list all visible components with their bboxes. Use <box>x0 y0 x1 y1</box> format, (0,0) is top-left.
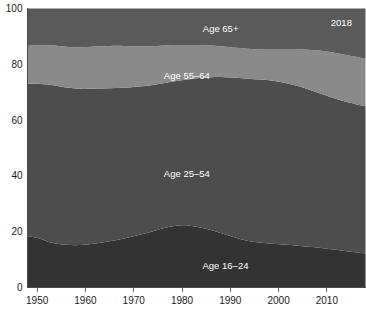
series-label-3: Age 55–64 <box>164 70 210 81</box>
x-tick-labels: 1950196019701980199020002010 <box>26 295 338 306</box>
series-label-2: Age 25–54 <box>164 168 210 179</box>
y-tick-label: 80 <box>11 59 23 70</box>
x-tick-label: 1980 <box>171 295 194 306</box>
x-tick-label: 1950 <box>26 295 49 306</box>
annotation-year: 2018 <box>331 17 352 28</box>
y-tick-label: 40 <box>11 170 23 181</box>
plot-areas <box>28 9 366 288</box>
chart-canvas: 1950196019701980199020002010 02040608010… <box>0 0 366 318</box>
y-tick-label: 20 <box>11 226 23 237</box>
series-label-4: Age 65+ <box>203 23 239 34</box>
x-tick-label: 1970 <box>123 295 146 306</box>
y-tick-label: 0 <box>17 282 23 293</box>
x-tick-label: 1990 <box>219 295 242 306</box>
x-tick-label: 1960 <box>74 295 97 306</box>
x-tick-label: 2010 <box>316 295 339 306</box>
series-label-1: Age 16–24 <box>202 260 248 271</box>
y-tick-labels: 020406080100 <box>6 3 23 293</box>
y-tick-label: 100 <box>6 3 23 14</box>
chart-annotations: 2018 <box>331 17 352 28</box>
stacked-area-chart: 1950196019701980199020002010 02040608010… <box>0 0 366 318</box>
y-tick-label: 60 <box>11 115 23 126</box>
x-tick-label: 2000 <box>267 295 290 306</box>
